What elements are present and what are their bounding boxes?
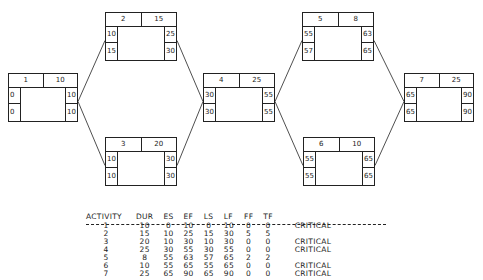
node-ls: 65 xyxy=(405,104,417,122)
table-cell: 25 xyxy=(136,246,163,254)
edge-4-5 xyxy=(275,41,302,102)
node-ef: 30 xyxy=(164,151,176,168)
node-es: 30 xyxy=(204,87,216,104)
node-duration: 20 xyxy=(142,138,177,151)
node-es: 0 xyxy=(9,87,21,104)
node-ls: 10 xyxy=(106,168,118,186)
node-duration: 8 xyxy=(339,13,374,26)
node-es: 65 xyxy=(405,87,417,104)
node-lf: 65 xyxy=(361,43,373,61)
node-lf: 30 xyxy=(164,168,176,186)
table-cell: 25 xyxy=(136,270,163,278)
table-row: 7256590659000CRITICAL xyxy=(86,270,341,278)
node-ls: 15 xyxy=(106,43,118,61)
table-cell: 2 xyxy=(86,230,136,238)
node-id: 6 xyxy=(304,138,340,151)
table-cell: CRITICAL xyxy=(283,222,341,230)
node-duration: 10 xyxy=(44,74,78,87)
table-cell: 3 xyxy=(86,238,136,246)
node-duration: 15 xyxy=(142,13,177,26)
activity-table: ACTIVITYDURESEFLSLFFFTF 11001001000CRITI… xyxy=(86,210,341,278)
node-es: 55 xyxy=(304,151,316,168)
edge-2-4 xyxy=(177,41,203,102)
node-header: 425 xyxy=(204,74,274,88)
node-header: 725 xyxy=(405,74,473,88)
node-ls: 55 xyxy=(304,168,316,186)
table-cell: 1 xyxy=(86,222,136,230)
node-id: 1 xyxy=(9,74,44,87)
activity-node-4: 425 30 30 55 55 xyxy=(203,73,275,122)
node-lf: 30 xyxy=(164,43,176,61)
node-header: 110 xyxy=(9,74,77,88)
node-lf: 55 xyxy=(262,104,274,122)
edge-5-7 xyxy=(374,41,404,102)
node-ls: 57 xyxy=(303,43,315,61)
node-header: 215 xyxy=(106,13,176,27)
node-ls: 0 xyxy=(9,104,21,122)
edge-4-6 xyxy=(275,102,303,166)
table-cell: CRITICAL xyxy=(283,246,341,254)
edge-6-7 xyxy=(375,102,404,166)
activity-node-6: 610 55 55 65 65 xyxy=(303,137,375,186)
table-cell: CRITICAL xyxy=(283,270,341,278)
node-id: 5 xyxy=(303,13,339,26)
activity-node-2: 215 10 15 25 30 xyxy=(105,12,177,61)
node-ef: 63 xyxy=(361,26,373,43)
node-lf: 10 xyxy=(65,104,77,122)
node-id: 2 xyxy=(106,13,142,26)
edge-1-2 xyxy=(78,41,105,102)
activity-node-3: 320 10 10 30 30 xyxy=(105,137,177,186)
activity-node-1: 110 0 0 10 10 xyxy=(8,73,78,122)
table-cell: 65 xyxy=(163,270,183,278)
node-ls: 30 xyxy=(204,104,216,122)
node-header: 320 xyxy=(106,138,176,152)
node-id: 3 xyxy=(106,138,142,151)
table-cell: 0 xyxy=(263,270,283,278)
node-ef: 10 xyxy=(65,87,77,104)
table-cell: 5 xyxy=(86,254,136,262)
edge-1-3 xyxy=(78,102,105,166)
node-id: 4 xyxy=(204,74,240,87)
node-duration: 10 xyxy=(340,138,375,151)
table-cell: 0 xyxy=(244,270,263,278)
table-cell: 7 xyxy=(86,270,136,278)
node-duration: 25 xyxy=(240,74,275,87)
node-id: 7 xyxy=(405,74,440,87)
node-duration: 25 xyxy=(440,74,474,87)
table-cell: 65 xyxy=(204,270,224,278)
activity-node-7: 725 65 65 90 90 xyxy=(404,73,474,122)
node-lf: 90 xyxy=(461,104,473,122)
node-ef: 90 xyxy=(461,87,473,104)
node-header: 58 xyxy=(303,13,373,27)
table-cell: 90 xyxy=(184,270,204,278)
activity-node-5: 58 55 57 63 65 xyxy=(302,12,374,61)
column-header: ACTIVITY xyxy=(86,210,136,222)
edge-3-4 xyxy=(177,102,203,166)
node-header: 610 xyxy=(304,138,374,152)
node-es: 10 xyxy=(106,151,118,168)
node-es: 55 xyxy=(303,26,315,43)
table-cell: 6 xyxy=(86,262,136,270)
node-ef: 55 xyxy=(262,87,274,104)
node-es: 10 xyxy=(106,26,118,43)
table-cell: 90 xyxy=(224,270,244,278)
node-ef: 65 xyxy=(362,151,374,168)
node-lf: 65 xyxy=(362,168,374,186)
table-cell: 4 xyxy=(86,246,136,254)
node-ef: 25 xyxy=(164,26,176,43)
